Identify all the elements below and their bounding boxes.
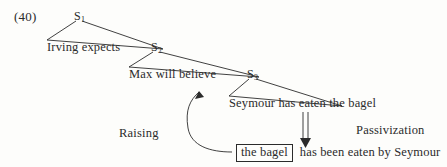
raising-label: Raising [119, 127, 159, 140]
node-s3-letter: S [247, 67, 254, 81]
example-number: (40) [14, 10, 36, 23]
passivization-arrow [300, 112, 311, 148]
passivization-label: Passivization [356, 124, 425, 137]
tree-diagram-lines [0, 0, 447, 167]
node-s1-letter: S [74, 9, 81, 23]
figure-canvas: (40) S1 S2 S3 Irving expects Max will be… [0, 0, 447, 167]
node-s2: S2 [151, 41, 162, 53]
passivized-output-line: the bagel has been eaten by Seymour [236, 144, 440, 162]
node-s1-subscript: 1 [81, 15, 85, 24]
passivized-remainder: has been eaten by Seymour [300, 146, 441, 159]
node-s3-subscript: 3 [254, 73, 258, 82]
clause-text-s1: Irving expects [47, 41, 120, 54]
node-s2-subscript: 2 [158, 46, 162, 55]
clause-text-s2: Max will believe [129, 68, 216, 81]
boxed-constituent-the-bagel: the bagel [236, 144, 293, 162]
raising-arrow [187, 91, 232, 152]
clause-text-s3: Seymour has eaten the bagel [229, 97, 376, 110]
node-s1: S1 [74, 10, 85, 22]
node-s3: S3 [247, 68, 258, 80]
node-s2-letter: S [151, 40, 158, 54]
